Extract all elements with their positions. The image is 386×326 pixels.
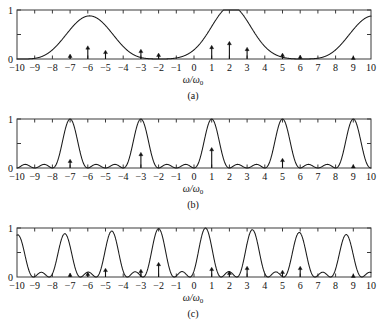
x-tick-label: −9 (29, 62, 40, 73)
x-tick-label: −10 (9, 280, 25, 291)
x-tick-label: 7 (315, 280, 320, 291)
arrow-head (281, 158, 285, 161)
plot-svg-c: 01−10−9−8−7−6−5−4−3−2−1012345678910 (0, 218, 386, 290)
x-tick-label: −5 (100, 62, 111, 73)
x-tick-label: 1 (209, 171, 214, 182)
x-tick-label: 6 (298, 171, 303, 182)
spectral-line-arrow (104, 268, 108, 277)
x-tick-label: 6 (298, 62, 303, 73)
intensity-curve (17, 228, 371, 277)
x-tick-label: 9 (351, 280, 356, 291)
arrow-head (227, 41, 231, 44)
x-tick-label: −4 (118, 171, 129, 182)
spectral-line-arrow (298, 266, 302, 277)
x-tick-label: −6 (82, 62, 93, 73)
arrow-head (281, 270, 285, 273)
arrow-head (68, 159, 72, 162)
x-tick-label: 5 (280, 62, 285, 73)
x-tick-label: 9 (351, 171, 356, 182)
x-tick-label: 4 (262, 280, 267, 291)
x-tick-label: −8 (47, 62, 58, 73)
x-axis-label-b: ω/ω0 (0, 183, 386, 196)
y-tick-label-1: 1 (8, 5, 13, 16)
x-axis-label-a: ω/ω0 (0, 74, 386, 87)
arrow-head (139, 49, 143, 52)
x-tick-label: −7 (65, 171, 76, 182)
x-tick-label: 1 (209, 62, 214, 73)
x-tick-label: −4 (118, 62, 129, 73)
plot-area-c: 01−10−9−8−7−6−5−4−3−2−1012345678910 (0, 218, 386, 290)
arrow-head (86, 46, 90, 49)
x-tick-label: −6 (82, 171, 93, 182)
plot-svg-a: 01−10−9−8−7−6−5−4−3−2−1012345678910 (0, 0, 386, 72)
spectral-line-arrow (351, 274, 355, 277)
plot-area-b: 01−10−9−8−7−6−5−4−3−2−1012345678910 (0, 109, 386, 181)
arrow-head (245, 47, 249, 50)
arrow-head (157, 53, 161, 56)
x-tick-label: −7 (65, 280, 76, 291)
x-tick-label: 9 (351, 62, 356, 73)
spectral-line-arrow (68, 159, 72, 168)
omega-ratio-label: ω/ω0 (183, 292, 203, 303)
plot-svg-b: 01−10−9−8−7−6−5−4−3−2−1012345678910 (0, 109, 386, 181)
intensity-curve (17, 10, 371, 59)
panel-b: 01−10−9−8−7−6−5−4−3−2−1012345678910 ω/ω0… (0, 109, 386, 217)
x-tick-label: 1 (209, 280, 214, 291)
arrow-head (245, 266, 249, 269)
x-tick-label: −1 (171, 62, 182, 73)
x-tick-label: −5 (100, 171, 111, 182)
omega-ratio-label: ω/ω0 (183, 183, 203, 194)
x-tick-label: −10 (9, 62, 25, 73)
x-tick-label: 0 (192, 171, 197, 182)
spectral-line-arrow (86, 46, 90, 59)
panel-caption-b: (b) (0, 199, 386, 210)
y-tick-label-1: 1 (8, 223, 13, 234)
x-tick-label: 0 (192, 280, 197, 291)
x-tick-label: 8 (333, 171, 338, 182)
arrow-head (104, 268, 108, 271)
arrow-head (210, 147, 214, 150)
spectral-line-arrow (210, 147, 214, 168)
x-tick-label: 10 (366, 280, 376, 291)
arrow-head (298, 55, 302, 58)
plot-area-a: 01−10−9−8−7−6−5−4−3−2−1012345678910 (0, 0, 386, 72)
spectral-line-arrow (351, 56, 355, 59)
spectral-line-arrow (139, 269, 143, 277)
arrow-head (210, 45, 214, 48)
x-tick-label: 7 (315, 171, 320, 182)
arrow-head (68, 54, 72, 57)
x-tick-label: −2 (153, 280, 164, 291)
spectral-line-arrow (227, 41, 231, 59)
arrow-head (68, 273, 72, 276)
spectral-line-arrow (281, 158, 285, 168)
x-tick-label: 4 (262, 62, 267, 73)
x-tick-label: −4 (118, 280, 129, 291)
x-tick-label: 5 (280, 171, 285, 182)
panel-caption-a: (a) (0, 90, 386, 101)
arrow-head (157, 262, 161, 265)
x-tick-label: 7 (315, 62, 320, 73)
x-tick-label: −7 (65, 62, 76, 73)
x-tick-label: −2 (153, 62, 164, 73)
x-tick-label: 3 (245, 280, 250, 291)
x-tick-label: 5 (280, 280, 285, 291)
x-tick-label: −2 (153, 171, 164, 182)
spectral-line-arrow (210, 267, 214, 277)
x-tick-label: 10 (366, 62, 376, 73)
x-tick-label: −9 (29, 280, 40, 291)
spectral-line-arrow (157, 53, 161, 59)
arrow-head (210, 267, 214, 270)
arrow-head (351, 274, 355, 277)
x-tick-label: 2 (227, 62, 232, 73)
omega-ratio-label: ω/ω0 (183, 74, 203, 85)
x-tick-label: −6 (82, 280, 93, 291)
x-tick-label: −9 (29, 171, 40, 182)
spectral-line-arrow (281, 53, 285, 59)
arrow-head (351, 165, 355, 168)
spectral-line-arrow (245, 47, 249, 59)
x-tick-label: 2 (227, 280, 232, 291)
spectral-line-arrow (210, 45, 214, 59)
x-tick-label: 2 (227, 171, 232, 182)
x-axis-label-c: ω/ω0 (0, 292, 386, 305)
spectral-line-arrow (139, 152, 143, 168)
